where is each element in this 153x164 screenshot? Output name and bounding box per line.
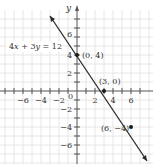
- equation-label: 4x + 3y = 12: [9, 42, 62, 51]
- origin-label: 0: [68, 92, 73, 101]
- point-label: (0, 4): [82, 51, 104, 60]
- y-tick-label: −2: [60, 105, 72, 114]
- x-tick-label: −6: [17, 96, 29, 105]
- data-point: [129, 125, 133, 129]
- point-label: (3, 0): [99, 77, 121, 86]
- y-axis-label: y: [65, 3, 72, 13]
- y-axis-arrow-icon: [75, 5, 79, 11]
- line-chart: −6 −4 −2 2 4 6 0 6 4 2 −2 −4 −6 y (0, 4)…: [0, 0, 153, 164]
- y-tick-label: 2: [67, 69, 72, 78]
- x-tick-labels: −6 −4 −2 2 4 6 0: [17, 92, 133, 105]
- y-tick-label: −6: [60, 141, 72, 150]
- x-tick-label: −2: [53, 96, 65, 105]
- y-tick-label: −4: [60, 123, 72, 132]
- x-tick-label: 2: [92, 96, 97, 105]
- point-label: (6, −4): [101, 124, 129, 133]
- line-arrow-top-icon: [50, 16, 55, 22]
- x-tick-label: −4: [35, 96, 47, 105]
- data-point: [102, 89, 106, 93]
- x-tick-label: 4: [110, 96, 115, 105]
- data-point: [75, 53, 79, 57]
- x-tick-label: 6: [128, 96, 133, 105]
- y-tick-label: 4: [67, 51, 72, 60]
- line-arrow-bottom-icon: [142, 155, 147, 161]
- series-line: [50, 16, 147, 161]
- y-tick-label: 6: [67, 30, 72, 39]
